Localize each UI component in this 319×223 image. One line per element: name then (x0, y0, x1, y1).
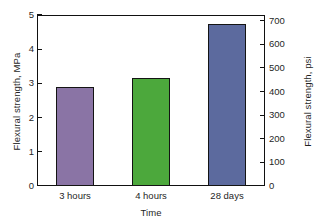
y-tick-label-right: 700 (269, 16, 299, 26)
bar-chart-figure: Flexural strength, MPa Flexural strength… (0, 0, 319, 223)
y-tick-mark-right (260, 20, 265, 21)
x-tick-label: 4 hours (113, 190, 189, 201)
y-tick-label-left: 3 (14, 78, 34, 88)
y-tick-mark-right (260, 138, 265, 139)
y-tick-mark-right (260, 115, 265, 116)
bar-28-days (208, 24, 246, 186)
y-tick-mark-left (37, 185, 42, 186)
y-tick-label-right: 300 (269, 110, 299, 120)
x-axis-label: Time (37, 207, 265, 218)
y-tick-label-left: 2 (14, 113, 34, 123)
y-tick-label-right: 0 (269, 181, 299, 191)
y-tick-label-left: 4 (14, 44, 34, 54)
y-tick-mark-left (37, 14, 42, 15)
y-tick-mark-left (37, 49, 42, 50)
y-tick-label-right: 500 (269, 63, 299, 73)
y-tick-mark-right (260, 44, 265, 45)
y-tick-label-right: 100 (269, 157, 299, 167)
y-axis-label-right: Flexural strength, psi (302, 32, 313, 172)
y-tick-label-right: 600 (269, 39, 299, 49)
y-tick-label-right: 400 (269, 87, 299, 97)
y-tick-mark-right (260, 91, 265, 92)
y-tick-mark-right (260, 162, 265, 163)
x-tick-label: 28 days (189, 190, 265, 201)
y-tick-mark-left (37, 117, 42, 118)
y-tick-mark-right (260, 185, 265, 186)
y-tick-mark-right (260, 67, 265, 68)
y-tick-mark-left (37, 151, 42, 152)
y-tick-label-left: 0 (14, 181, 34, 191)
bar-3-hours (56, 87, 94, 186)
y-tick-mark-left (37, 83, 42, 84)
y-tick-label-right: 200 (269, 134, 299, 144)
y-tick-label-left: 1 (14, 147, 34, 157)
y-tick-label-left: 5 (14, 10, 34, 20)
x-tick-label: 3 hours (37, 190, 113, 201)
bar-4-hours (132, 78, 170, 186)
